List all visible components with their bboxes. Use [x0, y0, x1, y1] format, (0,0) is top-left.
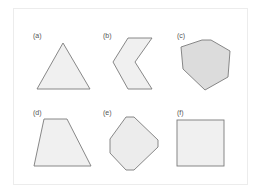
panel-e-label: (e)	[103, 109, 112, 117]
panel-e: (e)	[103, 109, 158, 170]
panel-a: (a)	[33, 32, 90, 89]
panel-f: (f)	[177, 109, 224, 166]
panel-a-label: (a)	[33, 32, 42, 40]
heptagon-shape	[181, 40, 230, 90]
panel-c: (c)	[177, 32, 230, 90]
chevron-shape	[113, 38, 152, 89]
shapes-figure: (a) (b) (c) (d) (e) (f)	[0, 0, 257, 190]
panel-c-label: (c)	[177, 32, 185, 40]
trapezoid-shape	[34, 119, 91, 166]
panel-b: (b)	[103, 32, 152, 89]
panel-b-label: (b)	[103, 32, 112, 40]
panel-f-label: (f)	[177, 109, 184, 117]
rounded-diamond-shape	[110, 117, 158, 170]
panel-d-label: (d)	[33, 109, 42, 117]
square-shape	[177, 120, 224, 166]
triangle-shape	[37, 43, 90, 89]
panel-d: (d)	[33, 109, 91, 166]
